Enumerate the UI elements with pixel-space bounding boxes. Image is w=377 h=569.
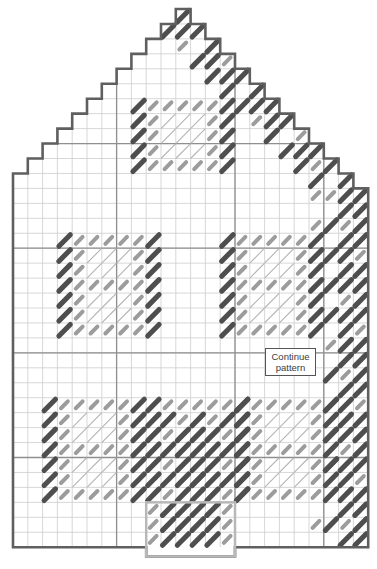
grid-accent-lines [0,0,377,547]
continue-pattern-label-line1: Continue [266,351,315,362]
grid-lines [0,0,377,547]
stitch-chart [0,0,377,569]
pattern-chart-page: Continue pattern [0,0,377,569]
continue-pattern-label: Continue pattern [265,348,316,376]
continue-pattern-label-line2: pattern [266,362,315,373]
